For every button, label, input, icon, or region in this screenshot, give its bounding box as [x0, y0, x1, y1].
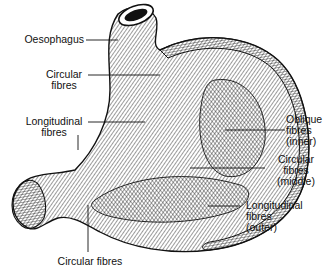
label-text: Oesophagus	[24, 33, 84, 45]
stomach-diagram: Oesophagus Circular fibres Longitudinal …	[0, 0, 330, 277]
label-longitudinal-fibres: Longitudinal fibres	[20, 116, 88, 138]
label-text: Circular fibres	[58, 255, 123, 267]
label-circular-fibres-bottom: Circular fibres	[40, 256, 140, 267]
label-circular-fibres-middle: Circular fibres (middle)	[266, 154, 326, 187]
label-circular-fibres-top: Circular fibres	[40, 69, 88, 91]
label-text: fibres	[40, 80, 88, 91]
label-text: (middle)	[266, 176, 326, 187]
label-longitudinal-fibres-outer: Longitudinal fibres (outer)	[246, 200, 326, 233]
label-oesophagus: Oesophagus	[8, 34, 84, 45]
label-text: (outer)	[246, 222, 326, 233]
label-text: fibres	[20, 127, 88, 138]
label-oblique-fibres-inner: Oblique fibres (inner)	[286, 114, 330, 147]
label-text: (inner)	[286, 136, 330, 147]
